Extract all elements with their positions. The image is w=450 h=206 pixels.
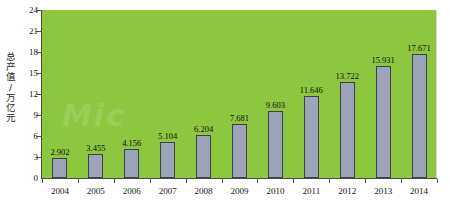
y-axis-tick-label: 21 (16, 26, 38, 36)
x-axis-tick-label: 2013 (374, 186, 392, 196)
x-axis-line (41, 178, 437, 179)
bar-value-label: 17.671 (407, 43, 430, 53)
x-axis-tick-mark (78, 179, 79, 183)
x-axis-tick-mark (222, 179, 223, 183)
x-axis-tick-label: 2009 (231, 186, 249, 196)
bar-value-label: 6.204 (194, 124, 213, 134)
x-axis-tick-label: 2011 (302, 186, 320, 196)
bar-value-label: 13.722 (336, 71, 359, 81)
y-axis-tick-label: 12 (16, 89, 38, 99)
bar-value-label: 11.646 (300, 85, 323, 95)
y-axis-tick-labels: 03691215182124 (14, 0, 38, 206)
bar (52, 158, 67, 178)
x-axis-tick-mark (150, 179, 151, 183)
x-axis-tick-label: 2008 (195, 186, 213, 196)
x-axis-tick-mark (293, 179, 294, 183)
y-axis-title: 总产值/万亿元 (1, 52, 15, 123)
bar (160, 142, 175, 178)
bar (304, 96, 319, 178)
x-axis-tick-mark (329, 179, 330, 183)
bar (232, 124, 247, 178)
x-axis-tick-label: 2014 (410, 186, 428, 196)
x-axis-tick-mark (401, 179, 402, 183)
y-axis-tick-label: 15 (16, 68, 38, 78)
y-axis-tick-label: 18 (16, 47, 38, 57)
x-axis-tick-label: 2004 (51, 186, 69, 196)
x-axis-tick-label: 2005 (87, 186, 105, 196)
x-axis-tick-label: 2007 (159, 186, 177, 196)
y-axis-tick-label: 0 (16, 173, 38, 183)
x-axis-tick-mark (42, 179, 43, 183)
bar (124, 149, 139, 178)
y-axis-tick-label: 3 (16, 152, 38, 162)
x-axis-tick-mark (257, 179, 258, 183)
x-axis-tick-mark (437, 179, 438, 183)
bar-value-label: 2.902 (50, 147, 69, 157)
x-axis-tick-mark (114, 179, 115, 183)
bar (268, 111, 283, 178)
x-axis-tick-mark (186, 179, 187, 183)
x-axis-tick-label: 2006 (123, 186, 141, 196)
watermark: Mic (62, 98, 126, 133)
y-axis-tick-label: 6 (16, 131, 38, 141)
x-axis-tick-label: 2012 (338, 186, 356, 196)
bar-value-label: 5.104 (158, 131, 177, 141)
bar (340, 82, 355, 178)
x-axis-tick-mark (365, 179, 366, 183)
bar (376, 66, 391, 178)
x-axis-tick-label: 2010 (266, 186, 284, 196)
bar-chart: 总产值/万亿元 03691215182124 Mic 2.9023.4554.1… (0, 0, 450, 206)
bar-value-label: 9.603 (266, 100, 285, 110)
bar-value-label: 4.156 (122, 138, 141, 148)
y-axis-tick-label: 9 (16, 110, 38, 120)
y-axis-tick-label: 24 (16, 5, 38, 15)
bar-value-label: 3.455 (86, 143, 105, 153)
bar-value-label: 7.681 (230, 113, 249, 123)
bar (196, 135, 211, 178)
bar-value-label: 15.931 (371, 55, 394, 65)
bar (88, 154, 103, 178)
bar (412, 54, 427, 178)
